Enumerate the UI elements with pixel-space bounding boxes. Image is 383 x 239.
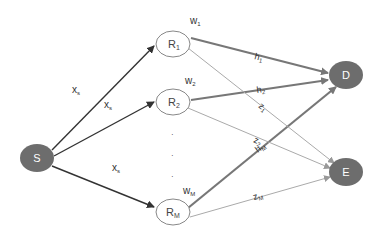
edge-s-rm [52,166,154,207]
weight-label-w1: w1 [189,15,201,27]
weight-label-wm: wM [182,185,195,197]
ellipsis-dot: · [171,130,174,139]
svg-text:S: S [33,152,40,164]
node-relay-2: R2 [156,89,190,115]
edge-label-s-r2: xs [104,99,112,111]
svg-text:D: D [342,69,350,81]
node-source: S [20,144,54,172]
weight-label-w2: w2 [184,75,196,87]
edge-label-s-rm: xs [112,162,120,174]
node-eavesdropper: E [329,158,363,186]
edge-label-rm-e: zM [252,190,264,203]
ellipsis-dot: · [171,172,174,181]
svg-text:E: E [342,166,349,178]
relay-network-diagram: xs xs xs h1 h2 hM z1 z2 zM w1 w2 wM · · … [0,0,383,239]
node-relay-1: R1 [156,31,190,57]
node-destination: D [329,61,363,89]
edge-label-r1-d: h1 [253,51,264,64]
ellipsis-dot: · [171,151,174,160]
edge-label-s-r1: xs [72,84,80,96]
edge-label-r2-d: h2 [256,84,266,96]
edge-s-r2 [54,102,154,156]
edge-s-r1 [52,46,154,150]
node-relay-m: RM [156,199,190,225]
